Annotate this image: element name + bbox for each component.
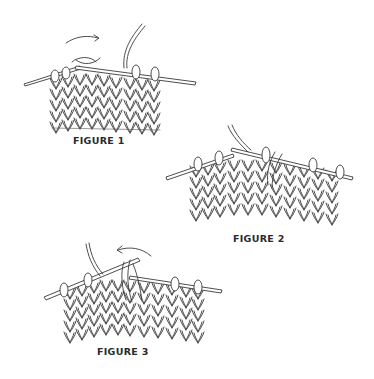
working-yarn	[228, 125, 251, 152]
knit-fabric	[64, 280, 204, 343]
knitting-illustration	[0, 0, 374, 379]
right-needle	[231, 148, 353, 180]
figure-2-drawing	[166, 125, 353, 225]
knit-fabric	[50, 74, 160, 135]
working-yarn	[86, 243, 103, 276]
figure-2-label: FIGURE 2	[233, 233, 285, 244]
figure-3-label: FIGURE 3	[97, 346, 149, 357]
figure-3-drawing	[44, 243, 222, 343]
working-yarn	[124, 24, 145, 68]
figure-1-label: FIGURE 1	[73, 135, 125, 146]
figure-1-drawing	[24, 24, 196, 135]
arrow-right-icon	[66, 35, 99, 43]
arrow-left-icon	[117, 246, 151, 256]
